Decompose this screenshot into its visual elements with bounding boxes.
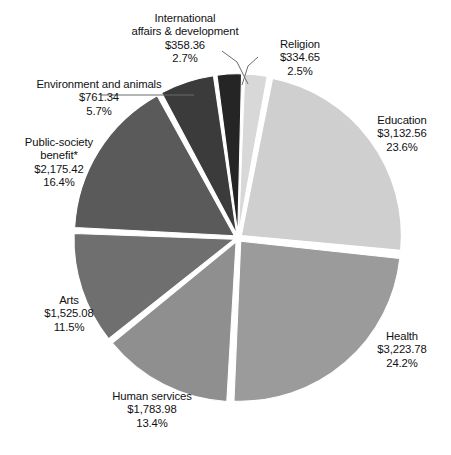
label-value: $2,175.42	[2, 163, 116, 176]
label-percent: 13.4%	[86, 417, 218, 430]
label-value: $761.34	[12, 91, 186, 104]
slice-label-environment-and-animals: Environment and animals $761.34 5.7%	[12, 78, 186, 118]
label-text: Public-society	[2, 136, 116, 149]
label-value: $3,223.78	[356, 343, 448, 356]
slice-label-public-society-benefit: Public-society benefit* $2,175.42 16.4%	[2, 136, 116, 190]
pie-chart: International affairs & development $358…	[0, 0, 451, 455]
slice-label-health: Health $3,223.78 24.2%	[356, 330, 448, 370]
label-value: $1,783.98	[86, 403, 218, 416]
label-percent: 23.6%	[356, 141, 448, 154]
label-percent: 5.7%	[12, 105, 186, 118]
label-text: benefit*	[2, 149, 116, 162]
label-text: Education	[356, 114, 448, 127]
label-percent: 2.7%	[106, 52, 264, 65]
slice-label-human-services: Human services $1,783.98 13.4%	[86, 390, 218, 430]
pie-slice-health[interactable]	[234, 241, 400, 401]
label-text: International	[106, 12, 264, 25]
label-text: Human services	[86, 390, 218, 403]
label-percent: 24.2%	[356, 357, 448, 370]
slice-label-international-affairs-and-development: International affairs & development $358…	[106, 12, 264, 66]
label-percent: 16.4%	[2, 176, 116, 189]
label-text: affairs & development	[106, 25, 264, 38]
pie-slice-education[interactable]	[241, 79, 401, 251]
label-value: $3,132.56	[356, 127, 448, 140]
slice-label-arts: Arts $1,525.08 11.5%	[20, 294, 118, 334]
label-text: Religion	[248, 38, 352, 51]
label-percent: 2.5%	[248, 65, 352, 78]
label-value: $334.65	[248, 51, 352, 64]
slice-label-religion: Religion $334.65 2.5%	[248, 38, 352, 78]
pie-chart-canvas	[0, 0, 451, 455]
label-text: Environment and animals	[12, 78, 186, 91]
slice-label-education: Education $3,132.56 23.6%	[356, 114, 448, 154]
label-value: $1,525.08	[20, 307, 118, 320]
label-percent: 11.5%	[20, 321, 118, 334]
label-text: Health	[356, 330, 448, 343]
label-text: Arts	[20, 294, 118, 307]
label-value: $358.36	[106, 39, 264, 52]
pie-slices-group	[74, 74, 401, 402]
